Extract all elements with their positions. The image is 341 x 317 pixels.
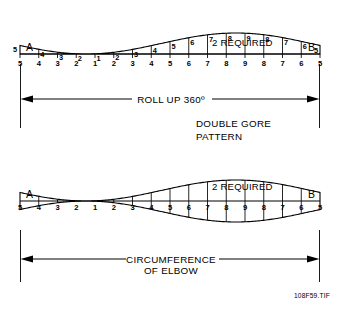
bottom-pattern-group: 54321234567898765 A B 2 REQUIRED [18,180,323,222]
circumference-arrow-left [21,256,34,263]
top-axis-number: 3 [55,59,59,68]
top-curve-number: 3 [134,50,138,59]
top-left-edge-number: 5 [13,45,17,54]
roll-up-arrow-left [21,96,34,103]
bottom-axis-number: 5 [318,203,323,212]
top-axis-number: 9 [243,59,247,68]
top-curve-number: 2 [115,53,119,62]
roll-up-dimension-group: ROLL UP 360º [21,64,320,128]
circumference-arrow-right [307,256,320,263]
pattern-title-line2: PATTERN [196,131,242,142]
technical-drawing-figure: 43212345678987655 54321234567898765 A B … [0,0,341,317]
bottom-axis-number: 8 [224,203,228,212]
top-curve-number: 1 [97,54,101,63]
top-axis-number: 8 [262,59,266,68]
bottom-axis-number: 6 [187,203,191,212]
top-curve-number: 7 [284,38,288,47]
top-axis-number: 2 [74,59,78,68]
top-marker-a: A [26,41,33,53]
roll-up-arrow-right [307,96,320,103]
bottom-axis-number: 7 [205,203,209,212]
circumference-dimension-group: CIRCUMFERENCE OF ELBOW [21,230,320,282]
roll-up-label: ROLL UP 360º [137,94,205,105]
bottom-axis-number: 1 [93,203,98,212]
figure-caption: 108F59.TIF [294,292,330,299]
circumference-label-line1: CIRCUMFERENCE [126,254,216,265]
top-curve-number: 5 [172,42,176,51]
bottom-marker-b: B [308,188,315,200]
bottom-marker-a: A [26,188,33,200]
top-axis-number: 3 [130,59,134,68]
top-axis-number: 4 [37,59,42,68]
top-pattern-ticks [20,54,320,58]
top-axis-number: 7 [205,59,209,68]
top-pattern-axis-numbers: 54321234567898765 [18,59,323,68]
top-curve-number: 6 [190,38,194,47]
top-axis-number: 5 [318,59,323,68]
gore-pattern-drawing: 43212345678987655 54321234567898765 A B … [0,0,341,317]
bottom-axis-number: 3 [55,203,59,212]
top-axis-number: 8 [224,59,228,68]
bottom-axis-number: 3 [130,203,134,212]
top-pattern-group: 43212345678987655 54321234567898765 A B … [13,33,323,68]
top-curve-number: 6 [303,42,307,51]
pattern-title-group: DOUBLE GORE PATTERN [196,118,271,142]
top-required-label: 2 REQUIRED [212,37,273,48]
top-axis-number: 2 [112,59,116,68]
bottom-axis-number: 8 [262,203,266,212]
top-curve-number: 3 [59,53,63,62]
top-axis-number: 7 [280,59,284,68]
bottom-axis-number: 7 [280,203,284,212]
top-axis-number: 6 [299,59,303,68]
circumference-label-line2: OF ELBOW [144,265,199,276]
top-axis-number: 4 [149,59,154,68]
bottom-axis-number: 2 [74,203,78,212]
pattern-title-line1: DOUBLE GORE [196,118,271,129]
top-axis-number: 6 [187,59,191,68]
top-marker-b: B [308,41,315,53]
bottom-required-label: 2 REQUIRED [212,181,273,192]
top-axis-number: 5 [168,59,173,68]
top-curve-number: 2 [78,54,82,63]
bottom-axis-number: 9 [243,203,247,212]
bottom-axis-number: 2 [112,203,116,212]
bottom-axis-number: 6 [299,203,303,212]
